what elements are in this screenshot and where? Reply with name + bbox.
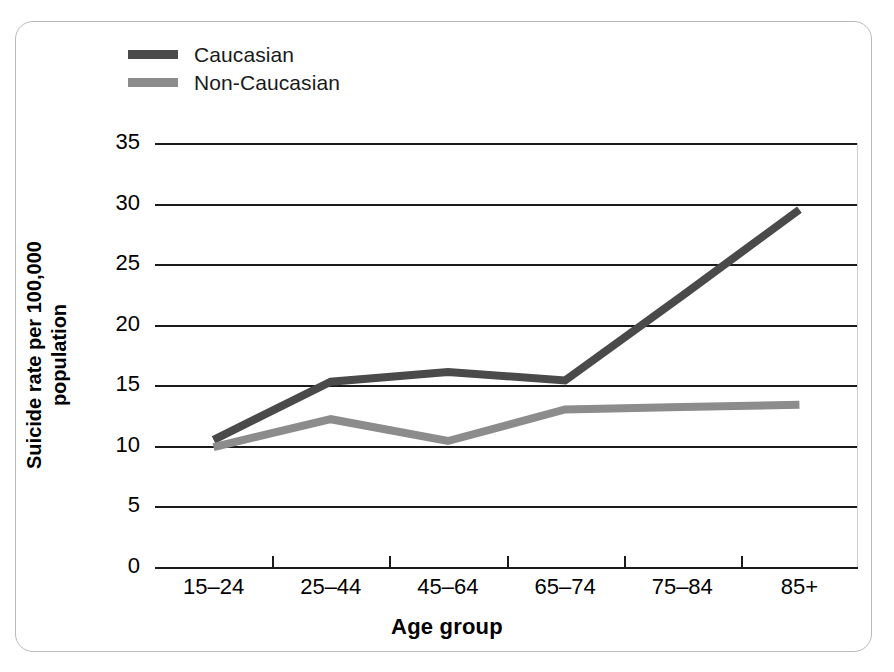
x-tick-label-1: 25–44: [300, 575, 361, 599]
x-axis-title: Age group: [0, 614, 894, 640]
y-axis-title-line1: Suicide rate per 100,000: [23, 241, 45, 469]
series-lines: [155, 143, 858, 567]
legend-label-caucasian: Caucasian: [194, 44, 294, 65]
legend-label-non-caucasian: Non-Caucasian: [194, 72, 340, 93]
y-axis-title-line2: population: [48, 304, 70, 406]
y-tick-label-20: 20: [94, 313, 140, 335]
y-tick-label-10: 10: [94, 434, 140, 456]
plot-area: [155, 143, 858, 567]
x-axis-tick-labels: 15–2425–4445–6465–7475–8485+: [155, 575, 858, 605]
y-tick-label-25: 25: [94, 252, 140, 274]
legend-swatch-non-caucasian: [128, 78, 178, 87]
y-axis-title: Suicide rate per 100,000 population: [14, 143, 80, 567]
x-tick-label-4: 75–84: [652, 575, 713, 599]
legend-entry-non-caucasian: Non-Caucasian: [128, 68, 448, 96]
y-tick-label-30: 30: [94, 192, 140, 214]
y-tick-label-15: 15: [94, 373, 140, 395]
x-tick-label-5: 85+: [781, 575, 818, 599]
y-tick-label-35: 35: [94, 131, 140, 153]
legend-entry-caucasian: Caucasian: [128, 40, 448, 68]
y-tick-label-0: 0: [94, 555, 140, 577]
x-axis-line: [155, 567, 858, 569]
x-tick-label-2: 45–64: [417, 575, 478, 599]
series-line-non-caucasian: [214, 405, 800, 447]
x-tick-label-0: 15–24: [183, 575, 244, 599]
legend-swatch-caucasian: [128, 50, 178, 59]
y-axis-tick-labels: 35302520151050: [88, 143, 140, 567]
chart-legend: Caucasian Non-Caucasian: [128, 40, 448, 96]
y-tick-label-5: 5: [94, 494, 140, 516]
x-tick-label-3: 65–74: [534, 575, 595, 599]
chart-figure: Caucasian Non-Caucasian 35302520151050 1…: [0, 0, 894, 672]
